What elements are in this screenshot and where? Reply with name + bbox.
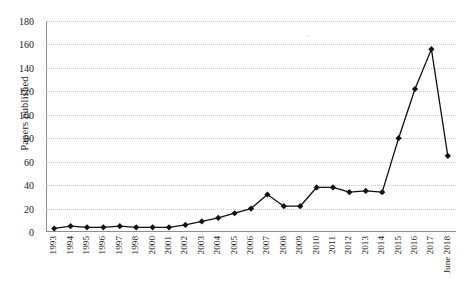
data-point-marker: 2000: 4 — [150, 224, 156, 230]
x-tick: 2017 — [425, 234, 437, 296]
y-tick-label: 60 — [0, 156, 34, 167]
x-tick: June 2018 — [442, 234, 454, 296]
y-tick-label: 180 — [0, 16, 34, 27]
x-tick-label: 1998 — [132, 236, 141, 254]
x-tick-label: 2006 — [246, 236, 255, 254]
x-tick: 1998 — [130, 234, 142, 296]
y-tick-label: 0 — [0, 227, 34, 238]
series-line — [54, 49, 448, 228]
x-tick: 2006 — [245, 234, 257, 296]
x-tick: 1997 — [114, 234, 126, 296]
x-tick-label: June 2018 — [443, 236, 452, 274]
x-tick-label: 2016 — [410, 236, 419, 254]
y-tick-label: 40 — [0, 180, 34, 191]
x-tick-label: 2015 — [394, 236, 403, 254]
y-tick-label: 80 — [0, 133, 34, 144]
x-tick-label: 2007 — [263, 236, 272, 254]
x-tick: 2012 — [343, 234, 355, 296]
x-tick-label: 2000 — [148, 236, 157, 254]
data-point-marker: 2012: 34 — [346, 189, 352, 195]
x-tick-label: 2011 — [328, 236, 337, 254]
data-point-marker: 2002: 6 — [182, 222, 188, 228]
x-tick-label: 2002 — [181, 236, 190, 254]
y-tick-label: 120 — [0, 86, 34, 97]
x-tick: 2005 — [229, 234, 241, 296]
x-tick: 2004 — [212, 234, 224, 296]
x-tick: 2016 — [409, 234, 421, 296]
data-point-marker: 1994: 5 — [68, 223, 74, 229]
data-point-marker: 2004: 12 — [215, 215, 221, 221]
x-tick: 1993 — [48, 234, 60, 296]
data-point-marker: 2017: 156 — [428, 46, 434, 52]
x-tick: 1996 — [97, 234, 109, 296]
data-point-marker: June 2018: 65 — [445, 153, 451, 159]
y-axis-tick-labels: 020406080100120140160180 — [0, 21, 40, 232]
x-tick: 2003 — [196, 234, 208, 296]
data-point-marker: 1996: 4 — [100, 224, 106, 230]
y-tick-label: 160 — [0, 39, 34, 50]
x-tick-label: 2004 — [214, 236, 223, 254]
data-point-marker: 1995: 4 — [84, 224, 90, 230]
x-tick-label: 2009 — [296, 236, 305, 254]
data-point-marker: 2001: 4 — [166, 224, 172, 230]
x-tick-label: 1994 — [66, 236, 75, 254]
x-tick-label: 2013 — [361, 236, 370, 254]
data-point-marker: 2003: 9 — [199, 218, 205, 224]
x-tick: 2002 — [179, 234, 191, 296]
x-tick: 2010 — [311, 234, 323, 296]
data-point-marker: 1997: 5 — [117, 223, 123, 229]
x-tick: 2001 — [163, 234, 175, 296]
y-tick-label: 100 — [0, 109, 34, 120]
x-tick-label: 1996 — [99, 236, 108, 254]
x-tick: 2013 — [360, 234, 372, 296]
x-tick-label: 2012 — [345, 236, 354, 254]
x-tick-label: 2003 — [197, 236, 206, 254]
x-tick: 2014 — [376, 234, 388, 296]
x-tick-label: 2010 — [312, 236, 321, 254]
x-tick-label: 2008 — [279, 236, 288, 254]
data-point-marker: 2016: 122 — [412, 86, 418, 92]
data-point-marker: 2013: 35 — [363, 188, 369, 194]
data-point-marker: 2011: 38 — [330, 184, 336, 190]
data-point-marker: 2014: 34 — [379, 189, 385, 195]
x-tick: 2000 — [147, 234, 159, 296]
x-tick-label: 1997 — [115, 236, 124, 254]
x-tick-label: 2017 — [427, 236, 436, 254]
data-point-marker: 2015: 80 — [396, 135, 402, 141]
y-tick-label: 140 — [0, 62, 34, 73]
x-tick-label: 2005 — [230, 236, 239, 254]
x-tick: 2011 — [327, 234, 339, 296]
line-series: 1993: 31994: 51995: 41996: 41997: 51998:… — [46, 21, 456, 232]
chart-container: Papers published 02040608010012014016018… — [0, 0, 469, 300]
data-point-marker: 1993: 3 — [51, 225, 57, 231]
x-tick-label: 2014 — [378, 236, 387, 254]
artifact-speck — [307, 35, 309, 37]
x-tick: 2007 — [261, 234, 273, 296]
x-axis-tick-labels: 1993199419951996199719982000200120022003… — [46, 234, 456, 300]
x-tick: 2015 — [393, 234, 405, 296]
data-point-marker: 2005: 16 — [232, 210, 238, 216]
x-tick-label: 1995 — [82, 236, 91, 254]
x-tick: 2008 — [278, 234, 290, 296]
x-tick: 1995 — [81, 234, 93, 296]
x-tick-label: 2001 — [164, 236, 173, 254]
x-tick-label: 1993 — [50, 236, 59, 254]
data-point-marker: 1998: 4 — [133, 224, 139, 230]
y-tick-label: 20 — [0, 203, 34, 214]
x-tick: 2009 — [294, 234, 306, 296]
x-tick: 1994 — [65, 234, 77, 296]
